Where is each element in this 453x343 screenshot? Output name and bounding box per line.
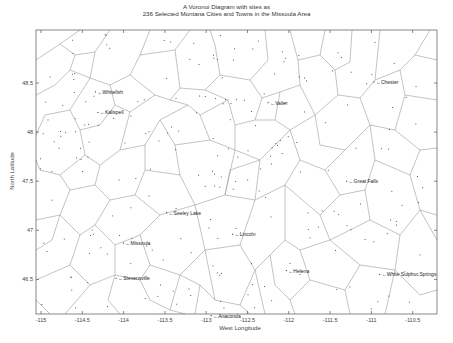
site-marker xyxy=(252,49,253,50)
site-marker xyxy=(251,111,252,112)
site-marker xyxy=(50,77,51,78)
site-marker xyxy=(365,239,366,240)
site-marker xyxy=(145,133,146,134)
site-marker xyxy=(338,214,339,215)
x-tick-label: -112.5 xyxy=(240,317,255,323)
site-marker xyxy=(73,79,74,80)
site-marker xyxy=(332,70,333,71)
site-marker xyxy=(100,247,101,248)
site-marker xyxy=(420,254,421,255)
site-marker xyxy=(274,74,275,75)
site-marker xyxy=(74,92,75,93)
city-label: ←Stevensville xyxy=(118,275,150,281)
site-marker xyxy=(406,97,407,98)
site-marker xyxy=(360,204,361,205)
site-marker xyxy=(284,61,285,62)
site-marker xyxy=(132,238,133,239)
x-tick-label: -113.5 xyxy=(157,317,172,323)
site-marker xyxy=(87,282,88,283)
site-marker xyxy=(166,78,167,79)
site-marker xyxy=(75,131,76,132)
site-marker xyxy=(107,306,108,307)
site-marker xyxy=(214,186,215,187)
y-tick-label: 46.5 xyxy=(22,276,33,282)
site-marker xyxy=(51,171,52,172)
site-marker xyxy=(223,103,224,104)
site-marker xyxy=(98,125,99,126)
site-marker xyxy=(389,129,390,130)
site-marker xyxy=(225,99,226,100)
site-marker xyxy=(285,58,286,59)
axes xyxy=(36,30,437,314)
site-marker xyxy=(258,41,259,42)
site-marker xyxy=(176,304,177,305)
site-marker xyxy=(235,181,236,182)
site-marker xyxy=(93,234,94,235)
site-marker xyxy=(43,133,44,134)
site-marker xyxy=(105,34,106,35)
x-tick-label: -115 xyxy=(36,317,47,323)
site-marker xyxy=(217,59,218,60)
site-marker xyxy=(308,229,309,230)
site-marker xyxy=(322,210,323,211)
site-marker xyxy=(308,213,309,214)
site-marker xyxy=(150,169,151,170)
site-marker xyxy=(264,93,265,94)
x-tick-label: -112 xyxy=(283,317,294,323)
site-marker xyxy=(88,124,89,125)
site-marker xyxy=(254,307,255,308)
site-marker xyxy=(107,254,108,255)
site-marker xyxy=(221,177,222,178)
site-marker xyxy=(84,125,85,126)
city-site xyxy=(346,181,347,182)
site-marker xyxy=(217,238,218,239)
site-marker xyxy=(176,98,177,99)
x-axis-ticks: -115-114.5-114-113.5-113-112.5-112-111.5… xyxy=(36,30,421,323)
site-marker xyxy=(387,233,388,234)
site-marker xyxy=(74,73,75,74)
site-marker xyxy=(43,243,44,244)
site-marker xyxy=(73,53,74,54)
site-marker xyxy=(237,157,238,158)
site-marker xyxy=(222,77,223,78)
city-label: ←Lincoln xyxy=(235,231,256,237)
site-marker xyxy=(60,136,61,137)
y-tick-label: 47 xyxy=(27,227,33,233)
site-marker xyxy=(325,122,326,123)
site-marker xyxy=(304,78,305,79)
site-marker xyxy=(164,40,165,41)
site-marker xyxy=(371,309,372,310)
site-marker xyxy=(300,172,301,173)
site-marker xyxy=(178,131,179,132)
site-marker xyxy=(71,290,72,291)
site-marker xyxy=(282,51,283,52)
site-marker xyxy=(280,140,281,141)
city-site xyxy=(232,234,233,235)
site-marker xyxy=(213,55,214,56)
site-marker xyxy=(371,74,372,75)
site-marker xyxy=(402,205,403,206)
site-marker xyxy=(157,296,158,297)
site-marker xyxy=(130,207,131,208)
site-marker xyxy=(259,191,260,192)
site-marker xyxy=(392,107,393,108)
site-marker xyxy=(355,148,356,149)
site-marker xyxy=(394,63,395,64)
site-marker xyxy=(175,149,176,150)
site-marker xyxy=(306,81,307,82)
site-marker xyxy=(244,100,245,101)
city-label: ←Whitefish xyxy=(98,89,124,95)
site-marker xyxy=(255,125,256,126)
site-marker xyxy=(70,277,71,278)
x-tick-label: -111 xyxy=(366,317,376,323)
site-marker xyxy=(119,235,120,236)
voronoi-sites xyxy=(40,34,423,309)
site-marker xyxy=(341,57,342,58)
city-label: ←Missoula xyxy=(126,240,151,246)
site-marker xyxy=(264,286,265,287)
site-marker xyxy=(210,219,211,220)
city-site xyxy=(116,278,117,279)
x-tick-label: -110.5 xyxy=(405,317,420,323)
site-marker xyxy=(422,187,423,188)
x-tick-label: -114 xyxy=(118,317,129,323)
